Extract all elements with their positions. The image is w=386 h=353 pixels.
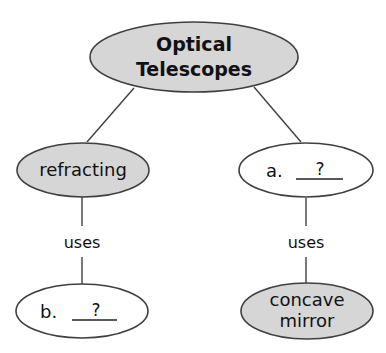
blank-b-question: ?: [91, 300, 100, 320]
root-node: Optical Telescopes: [90, 22, 298, 92]
root-title-line2: Telescopes: [136, 58, 252, 80]
root-title-line1: Optical: [156, 33, 232, 55]
link-label-uses-left: uses: [64, 233, 101, 252]
blank-node-a-shape: [239, 143, 373, 197]
blank-node-a: a. ?: [239, 143, 373, 197]
concave-mirror-node: concave mirror: [241, 283, 373, 339]
concept-map: Optical Telescopes refracting a. ? uses …: [0, 0, 386, 353]
concave-mirror-line2: mirror: [279, 310, 335, 331]
concave-mirror-line1: concave: [270, 289, 345, 310]
link-label-uses-right: uses: [288, 233, 325, 252]
refracting-node: refracting: [17, 143, 149, 197]
blank-a-prefix: a.: [266, 160, 283, 181]
blank-b-prefix: b.: [40, 301, 57, 322]
blank-a-question: ?: [315, 159, 324, 179]
link-root-refracting: [87, 88, 134, 142]
blank-node-b: b. ?: [16, 284, 148, 338]
link-root-a: [254, 87, 301, 142]
refracting-label: refracting: [39, 159, 127, 180]
blank-node-b-shape: [16, 284, 148, 338]
